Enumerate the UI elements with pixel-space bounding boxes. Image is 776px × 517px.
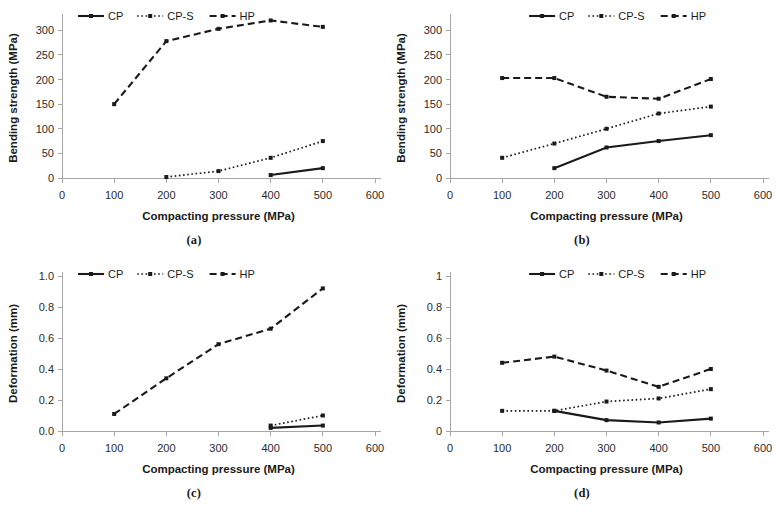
x-tick-label: 500: [702, 189, 720, 201]
x-axis-title: Compacting pressure (MPa): [530, 463, 683, 475]
chart-legend: CPCP-SHP: [78, 10, 255, 22]
y-tick-label: 0.2: [39, 394, 54, 406]
legend-marker: [672, 272, 676, 276]
chart-panel-b: 0501001502002503000100200300400500600Com…: [388, 0, 776, 258]
x-tick-label: 600: [366, 189, 384, 201]
y-tick-label: 100: [36, 123, 54, 135]
x-tick-label: 0: [447, 442, 453, 454]
x-tick-label: 600: [366, 442, 384, 454]
x-tick-label: 0: [447, 189, 453, 201]
data-point-marker: [217, 27, 221, 31]
y-tick-label: 300: [424, 24, 442, 36]
y-tick-label: 50: [42, 147, 54, 159]
x-tick-label: 0: [59, 442, 65, 454]
y-tick-label: 0: [48, 172, 54, 184]
x-tick-label: 200: [545, 442, 563, 454]
y-tick-label: 0.4: [427, 363, 442, 375]
x-tick-label: 0: [59, 189, 65, 201]
y-tick-label: 0: [436, 425, 442, 437]
legend-marker: [672, 14, 676, 18]
data-point-marker: [164, 39, 168, 43]
chart-panel-c: 0.00.20.40.60.81.00100200300400500600Com…: [0, 258, 388, 517]
y-tick-label: 1: [436, 270, 442, 282]
data-point-marker: [709, 387, 713, 391]
legend-label-cp: CP: [559, 268, 574, 280]
data-point-marker: [657, 139, 661, 143]
x-tick-label: 400: [261, 442, 279, 454]
x-tick-label: 500: [314, 442, 332, 454]
legend-label-hp: HP: [240, 268, 255, 280]
legend-marker: [540, 14, 544, 18]
legend-marker: [599, 14, 603, 18]
data-point-marker: [657, 385, 661, 389]
x-tick-label: 400: [261, 189, 279, 201]
data-point-marker: [552, 166, 556, 170]
series-line-cp: [554, 411, 711, 423]
data-point-marker: [321, 25, 325, 29]
chart-svg-c: 0.00.20.40.60.81.00100200300400500600Com…: [0, 258, 388, 493]
data-point-marker: [269, 18, 273, 22]
data-point-marker: [709, 133, 713, 137]
legend-label-hp: HP: [691, 268, 706, 280]
x-axis-title: Compacting pressure (MPa): [142, 463, 295, 475]
data-point-marker: [321, 424, 325, 428]
chart-panel-a: 0501001502002503000100200300400500600Com…: [0, 0, 388, 258]
data-point-marker: [500, 361, 504, 365]
data-point-marker: [552, 142, 556, 146]
x-axis-title: Compacting pressure (MPa): [530, 210, 683, 222]
series-line-cp: [271, 426, 323, 428]
y-tick-label: 200: [36, 74, 54, 86]
chart-legend: CPCP-SHP: [78, 268, 255, 280]
data-point-marker: [709, 367, 713, 371]
y-tick-label: 200: [424, 74, 442, 86]
y-tick-label: 50: [430, 147, 442, 159]
chart-svg-a: 0501001502002503000100200300400500600Com…: [0, 0, 388, 240]
series-line-cp: [554, 135, 711, 168]
data-point-marker: [217, 169, 221, 173]
panel-caption-c: (c): [0, 486, 388, 501]
data-point-marker: [321, 286, 325, 290]
chart-legend: CPCP-SHP: [529, 10, 706, 22]
x-tick-label: 300: [597, 189, 615, 201]
x-tick-label: 100: [105, 189, 123, 201]
legend-marker: [148, 272, 152, 276]
legend-marker: [89, 14, 93, 18]
legend-marker: [599, 272, 603, 276]
legend-label-cps: CP-S: [618, 268, 644, 280]
x-tick-label: 300: [209, 189, 227, 201]
y-tick-label: 300: [36, 24, 54, 36]
data-point-marker: [321, 414, 325, 418]
series-line-cp: [271, 168, 323, 175]
x-tick-label: 300: [209, 442, 227, 454]
data-point-marker: [500, 409, 504, 413]
data-point-marker: [709, 417, 713, 421]
y-tick-label: 250: [424, 49, 442, 61]
data-point-marker: [500, 156, 504, 160]
legend-label-cp: CP: [108, 268, 123, 280]
data-point-marker: [552, 76, 556, 80]
legend-label-cp: CP: [559, 10, 574, 22]
data-point-marker: [605, 400, 609, 404]
chart-svg-d: 00.20.40.60.810100200300400500600Compact…: [388, 258, 776, 493]
series-line-hp: [114, 288, 323, 414]
y-tick-label: 0.4: [39, 363, 54, 375]
y-tick-label: 0.8: [427, 301, 442, 313]
x-tick-label: 500: [702, 442, 720, 454]
data-point-marker: [657, 420, 661, 424]
legend-label-hp: HP: [240, 10, 255, 22]
data-point-marker: [552, 355, 556, 359]
y-tick-label: 0.2: [427, 394, 442, 406]
data-point-marker: [605, 127, 609, 131]
data-point-marker: [112, 412, 116, 416]
legend-label-cps: CP-S: [167, 10, 193, 22]
data-point-marker: [709, 77, 713, 81]
data-point-marker: [605, 95, 609, 99]
y-axis-title: Deformation (mm): [7, 304, 19, 403]
series-line-cps: [271, 416, 323, 426]
data-point-marker: [605, 418, 609, 422]
y-tick-label: 150: [36, 98, 54, 110]
x-tick-label: 200: [157, 189, 175, 201]
x-tick-label: 300: [597, 442, 615, 454]
y-axis-title: Deformation (mm): [395, 304, 407, 403]
data-point-marker: [269, 173, 273, 177]
